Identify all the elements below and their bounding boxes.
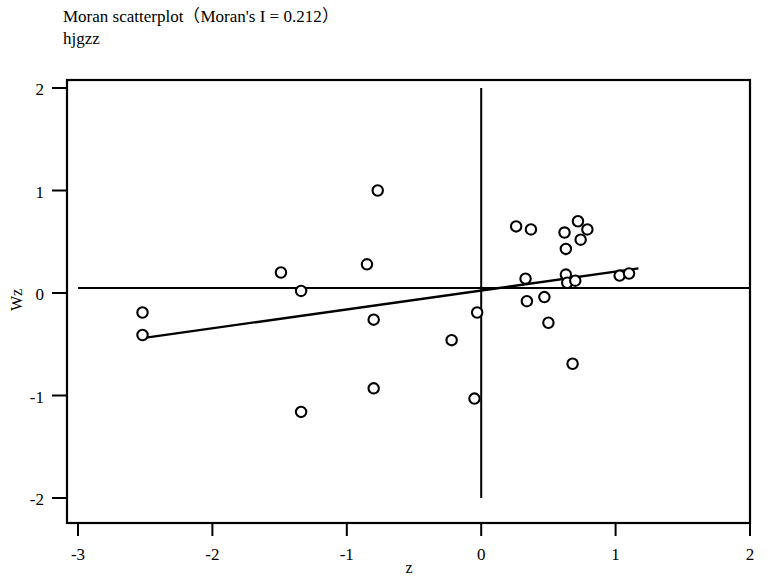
data-point (511, 221, 521, 231)
moran-scatterplot: Moran scatterplot（Moran's I = 0.212） hjg… (0, 0, 768, 585)
y-tick-label: 2 (36, 80, 45, 99)
x-tick-label: -3 (71, 545, 85, 564)
data-point (526, 224, 536, 234)
x-tick-label: 1 (611, 545, 620, 564)
data-point (575, 235, 585, 245)
data-point (561, 244, 571, 254)
chart-title: Moran scatterplot（Moran's I = 0.212） (63, 7, 339, 26)
data-point (582, 224, 592, 234)
y-axis-ticks (52, 88, 67, 498)
y-tick-label: -1 (30, 388, 44, 407)
data-point (570, 276, 580, 286)
x-axis-tick-labels: -3-2-1012 (71, 545, 754, 564)
data-point (137, 330, 147, 340)
data-point (362, 259, 372, 269)
data-point (567, 359, 577, 369)
y-axis-tick-labels: 210-1-2 (30, 80, 44, 509)
data-point (520, 273, 530, 283)
data-point (522, 296, 532, 306)
data-point (539, 292, 549, 302)
data-point (368, 314, 378, 324)
x-axis-ticks (78, 523, 750, 536)
x-tick-label: -1 (340, 545, 354, 564)
data-point (368, 383, 378, 393)
data-point (543, 318, 553, 328)
data-point (296, 407, 306, 417)
x-tick-label: 2 (746, 545, 755, 564)
y-tick-label: 0 (36, 285, 45, 304)
data-points (137, 185, 634, 417)
data-point (137, 307, 147, 317)
scatterplot-canvas: Moran scatterplot（Moran's I = 0.212） hjg… (0, 0, 768, 585)
data-point (276, 267, 286, 277)
data-point (469, 393, 479, 403)
y-tick-label: 1 (36, 183, 45, 202)
data-point (559, 227, 569, 237)
data-point (573, 216, 583, 226)
x-tick-label: 0 (477, 545, 486, 564)
x-axis-label: z (405, 559, 412, 576)
data-point (373, 185, 383, 195)
x-tick-label: -2 (205, 545, 219, 564)
chart-subtitle: hjgzz (63, 29, 100, 48)
y-axis-label: Wz (8, 289, 25, 311)
data-point (624, 268, 634, 278)
data-point (296, 286, 306, 296)
data-point (472, 307, 482, 317)
y-tick-label: -2 (30, 490, 44, 509)
data-point (446, 335, 456, 345)
